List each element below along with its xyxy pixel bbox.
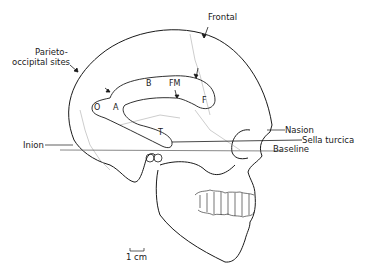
orbit-outline (232, 130, 250, 159)
label-parieto: Parieto- (35, 48, 68, 57)
label-occipital-sites: occipital sites (12, 58, 70, 67)
region-o: O (94, 104, 100, 112)
teeth (195, 190, 254, 217)
label-frontal: Frontal (208, 13, 237, 22)
cranium-outline (69, 30, 272, 156)
label-baseline: Baseline (273, 145, 309, 154)
face-outline (248, 156, 262, 222)
label-inion: Inion (23, 141, 44, 150)
skull-diagram: Frontal Parieto- occipital sites Nasion … (0, 0, 370, 271)
mastoid (154, 154, 162, 162)
occipital-outline (74, 140, 155, 182)
arrows (70, 27, 208, 98)
zygomatic-outline (160, 162, 235, 175)
scale-bar (130, 248, 144, 251)
region-t: T (158, 129, 163, 137)
region-fm: FM (169, 80, 181, 88)
region-a: A (113, 104, 118, 112)
region-f: F (202, 97, 207, 105)
region-b: B (146, 80, 152, 88)
baseline-line (60, 150, 282, 151)
sutures (80, 34, 240, 170)
sella-line (172, 140, 302, 142)
label-nasion: Nasion (285, 126, 314, 135)
scale-label: 1 cm (126, 253, 147, 262)
label-sella-turcica: Sella turcica (302, 136, 354, 145)
